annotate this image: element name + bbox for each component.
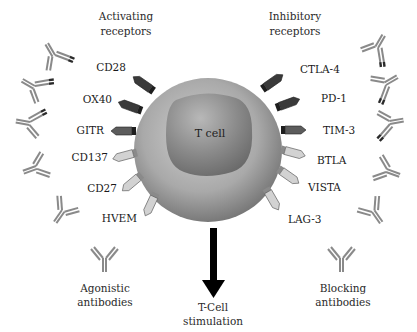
t-cell-label: T cell [195, 127, 226, 140]
receptor-hvem [142, 191, 160, 217]
inhibitory-heading-line2: receptors [270, 25, 321, 37]
antibody-icon [14, 105, 48, 140]
antibody-icon [44, 194, 80, 230]
stimulation-caption-line1: T-Cell [198, 301, 229, 313]
receptor-ox40 [117, 98, 143, 114]
label-gitr: GITR [77, 124, 106, 136]
label-lag3: LAG-3 [288, 213, 321, 225]
antibody-icon [328, 247, 355, 272]
receptor-pd1 [275, 95, 301, 111]
label-cd28: CD28 [96, 61, 126, 73]
antibody-icon [358, 28, 398, 68]
down-arrow-icon [202, 228, 225, 298]
antibody-icon [373, 107, 407, 142]
stimulation-caption-line2: stimulation [183, 315, 243, 327]
receptor-cd27 [120, 172, 144, 194]
label-vista: VISTA [307, 181, 341, 193]
t-cell-immune-checkpoint-diagram: T cell Activating receptors Inhibitory r… [0, 0, 417, 332]
antibody-icon [19, 151, 52, 185]
label-ctla4: CTLA-4 [300, 63, 340, 75]
agonistic-caption-line2: antibodies [77, 296, 132, 308]
antibody-icon [366, 65, 406, 105]
antibody-icon [35, 35, 75, 75]
antibody-icon [372, 154, 405, 188]
receptor-vista [276, 166, 301, 187]
label-hvem: HVEM [102, 212, 137, 224]
label-cd27: CD27 [87, 182, 117, 194]
antibody-icon [15, 66, 55, 106]
inhibitory-heading-line1: Inhibitory [269, 10, 322, 22]
receptor-cd137 [112, 149, 138, 163]
receptor-tim3 [281, 126, 306, 134]
receptor-lag3 [263, 186, 282, 212]
antibody-icon [356, 194, 392, 230]
antibody-icon [91, 247, 118, 272]
agonistic-caption-line1: Agonistic [79, 282, 130, 294]
label-ox40: OX40 [83, 93, 112, 105]
label-btla: BTLA [317, 154, 347, 166]
receptor-gitr [111, 127, 136, 135]
blocking-caption-line2: antibodies [315, 296, 370, 308]
label-tim3: TIM-3 [323, 124, 355, 136]
activating-heading-line1: Activating [98, 10, 154, 22]
receptor-ctla4 [260, 72, 285, 93]
blocking-caption-line1: Blocking [320, 282, 367, 294]
activating-heading-line2: receptors [101, 25, 152, 37]
label-cd137: CD137 [72, 151, 109, 163]
receptor-cd28 [131, 74, 156, 95]
receptor-btla [280, 146, 306, 160]
label-pd1: PD-1 [321, 92, 347, 104]
